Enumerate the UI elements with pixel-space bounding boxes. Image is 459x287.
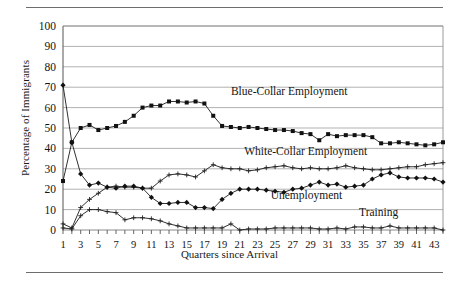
x-tick-label: 19: [217, 239, 228, 250]
x-tick-label: 31: [323, 239, 334, 250]
y-tick-label: 20: [45, 183, 57, 195]
line-chart: 0102030405060708090100135791113151719212…: [0, 0, 459, 287]
series-annotation-label: Unemployment: [271, 189, 343, 202]
x-tick-label: 25: [270, 239, 281, 250]
x-tick-label: 29: [305, 239, 316, 250]
x-tick-label: 33: [341, 239, 352, 250]
series-white-collar-employment: [61, 160, 446, 230]
x-tick-label: 11: [146, 239, 156, 250]
x-tick-label: 5: [96, 239, 101, 250]
x-tick-label: 41: [411, 239, 422, 250]
plot-area: 0102030405060708090100135791113151719212…: [0, 0, 459, 287]
x-tick-label: 39: [394, 239, 405, 250]
y-tick-label: 10: [45, 204, 57, 216]
y-tick-label: 30: [45, 163, 57, 175]
x-tick-label: 15: [181, 239, 192, 250]
x-tick-label: 1: [60, 239, 65, 250]
y-tick-label: 40: [45, 142, 57, 154]
x-tick-label: 9: [131, 239, 136, 250]
x-tick-label: 43: [429, 239, 440, 250]
y-tick-label: 50: [45, 122, 57, 134]
x-tick-label: 7: [113, 239, 118, 250]
y-tick-label: 70: [45, 81, 57, 93]
x-tick-label: 37: [376, 239, 387, 250]
series-annotation-label: White-Collar Employment: [244, 145, 368, 158]
x-tick-label: 27: [288, 239, 299, 250]
y-tick-label: 90: [45, 40, 57, 52]
y-tick-label: 100: [39, 20, 57, 32]
x-tick-label: 35: [358, 239, 369, 250]
x-tick-label: 23: [252, 239, 263, 250]
series-annotation-label: Blue-Collar Employment: [231, 85, 348, 98]
x-tick-label: 21: [234, 239, 245, 250]
x-tick-label: 13: [164, 239, 175, 250]
y-tick-label: 0: [50, 224, 56, 236]
x-tick-label: 3: [78, 239, 83, 250]
x-tick-label: 17: [199, 239, 210, 250]
series-annotation-label: Training: [359, 206, 398, 219]
y-tick-label: 60: [45, 102, 57, 114]
figure-container: Percentage of Immigrants Quarters since …: [0, 0, 459, 287]
y-tick-label: 80: [45, 61, 57, 73]
